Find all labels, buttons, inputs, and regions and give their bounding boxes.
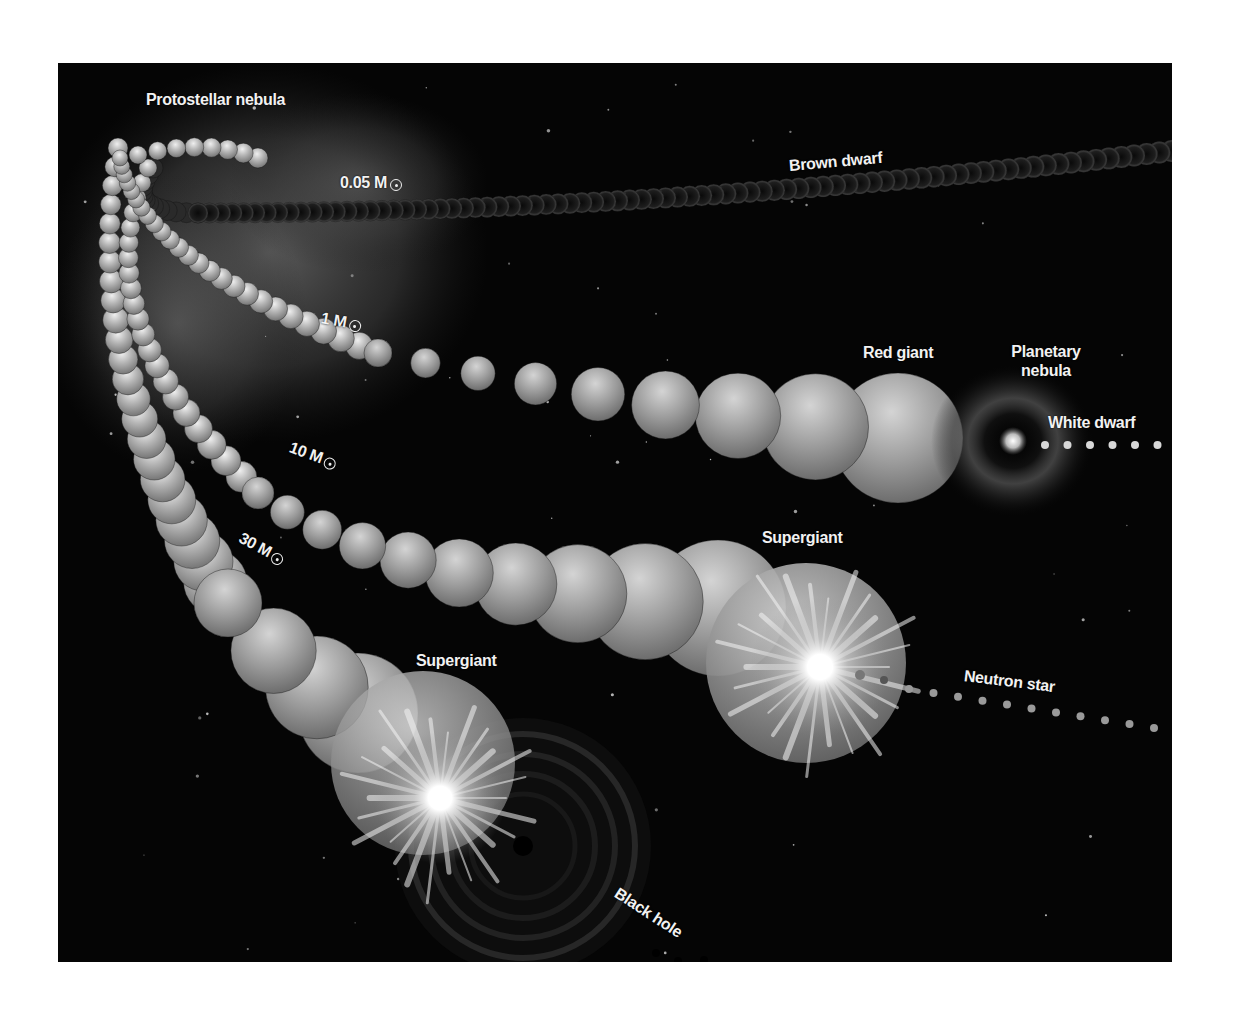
- label-planetary-nebula: Planetarynebula: [1002, 342, 1090, 380]
- label-protostellar-nebula: Protostellar nebula: [146, 91, 285, 109]
- planetary-nebula-line2: nebula: [1002, 361, 1090, 380]
- supergiant-10-flare: [706, 563, 918, 777]
- planetary-nebula-line1: Planetary: [1002, 342, 1090, 361]
- stellar-evolution-artwork: [58, 63, 1172, 962]
- label-mass-0-05: 0.05 M: [340, 174, 402, 192]
- label-red-giant: Red giant: [863, 344, 933, 362]
- planetary-nebula: [931, 363, 1095, 519]
- mass-0-05-text: 0.05 M: [340, 174, 387, 191]
- mass-1-text: 1 M: [320, 309, 348, 330]
- label-white-dwarf: White dwarf: [1048, 414, 1135, 432]
- black-hole-trail: [652, 949, 708, 962]
- sun-symbol-icon: [348, 319, 362, 333]
- sun-symbol-icon: [390, 179, 402, 191]
- label-supergiant-10: Supergiant: [762, 529, 843, 547]
- label-supergiant-30: Supergiant: [416, 652, 497, 670]
- diagram-frame: Protostellar nebula 0.05 M Brown dwarf 1…: [58, 63, 1172, 962]
